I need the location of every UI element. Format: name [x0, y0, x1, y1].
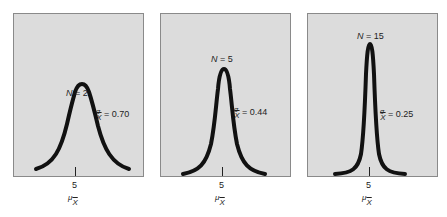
sigma-label: σX = 0.25 [380, 109, 413, 119]
chart-panel-n2: N = 2 σX = 0.70 [13, 13, 144, 177]
sigma-label: σX = 0.70 [96, 109, 129, 119]
mu-label: μX [68, 193, 78, 202]
tick-mark [75, 167, 76, 176]
tick-label: 5 [366, 180, 371, 190]
tick-mark [222, 167, 223, 176]
sigma-label: σX = 0.44 [234, 107, 267, 117]
distribution-curve-n5 [161, 14, 290, 176]
mu-label: μX [362, 193, 372, 202]
n-label: N = 15 [357, 31, 384, 41]
tick-mark [369, 167, 370, 176]
tick-label: 5 [72, 180, 77, 190]
chart-panel-n5: N = 5 σX = 0.44 [160, 13, 291, 177]
chart-panel-n15: N = 15 σX = 0.25 [307, 13, 438, 177]
mu-label: μX [215, 193, 225, 202]
n-label: N = 5 [211, 54, 233, 64]
tick-label: 5 [219, 180, 224, 190]
n-label: N = 2 [66, 88, 88, 98]
